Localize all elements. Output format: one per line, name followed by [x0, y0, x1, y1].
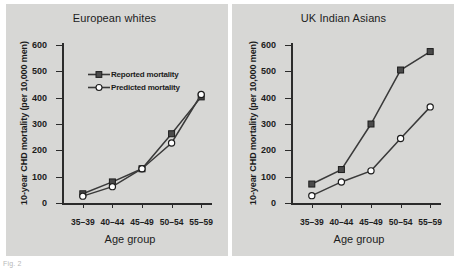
data-point — [427, 104, 433, 110]
data-point — [80, 193, 86, 199]
data-point — [309, 193, 315, 199]
series-line — [83, 95, 201, 197]
data-point — [109, 184, 115, 190]
legend-label-reported-left: Reported mortality — [111, 70, 179, 79]
plot-area-right: 010020030040050060035–3940–4445–4950–545… — [291, 45, 439, 203]
data-point — [338, 167, 344, 173]
y-axis-tick-label: 200 — [261, 145, 276, 155]
y-axis-tick-label: 500 — [32, 66, 47, 76]
x-axis-tick-label: 40–44 — [101, 217, 125, 227]
y-axis-tick-label: 100 — [261, 172, 276, 182]
y-axis-tick-label: 200 — [32, 145, 47, 155]
x-axis-tick-label: 45–49 — [359, 217, 383, 227]
data-point — [368, 168, 374, 174]
data-point — [169, 131, 175, 137]
y-axis-tick-label: 0 — [42, 198, 47, 208]
y-axis-tick-label: 600 — [32, 40, 47, 50]
data-point — [309, 181, 315, 187]
legend-item-predicted-left: Predicted mortality — [88, 81, 180, 94]
data-point — [398, 67, 404, 73]
reported-series-marker-icon — [88, 70, 110, 79]
data-point — [169, 140, 175, 146]
series-predicted — [309, 104, 434, 199]
x-axis-tick-label: 50–54 — [160, 217, 184, 227]
figure-container: European whites 10-year CHD mortality (p… — [0, 0, 458, 271]
x-axis-tick-label: 35–39 — [300, 217, 324, 227]
y-axis-tick-label: 600 — [261, 40, 276, 50]
x-axis-tick-label: 55–59 — [189, 217, 213, 227]
series-layer-right — [291, 45, 455, 207]
panel-uk-indian-asians: UK Indian Asians 10-year CHD mortality (… — [229, 0, 458, 258]
data-point — [398, 135, 404, 141]
panel-title-right: UK Indian Asians — [229, 12, 458, 24]
y-axis-tick-label: 0 — [271, 198, 276, 208]
x-axis-tick-label: 55–59 — [418, 217, 442, 227]
series-line — [312, 52, 430, 184]
y-axis-tick-label: 300 — [32, 119, 47, 129]
predicted-series-marker-icon — [88, 83, 110, 92]
x-axis-label-left: Age group — [40, 233, 220, 245]
y-axis-tick-label: 400 — [32, 93, 47, 103]
y-axis-label-left: 10-year CHD mortality (per 10,000 men) — [19, 33, 29, 213]
series-line — [312, 107, 430, 196]
y-axis-tick-label: 300 — [261, 119, 276, 129]
y-axis-label-right: 10-year CHD mortality (per 10,000 men) — [248, 33, 258, 213]
caption-strip — [0, 258, 458, 271]
series-reported — [80, 94, 204, 197]
series-line — [83, 97, 201, 194]
x-axis-label-right: Age group — [269, 233, 449, 245]
x-axis-tick-label: 50–54 — [389, 217, 413, 227]
data-point — [198, 91, 204, 97]
data-point — [338, 179, 344, 185]
y-axis-tick-label: 400 — [261, 93, 276, 103]
x-axis-tick-label: 45–49 — [130, 217, 154, 227]
series-predicted — [80, 91, 205, 199]
series-reported — [309, 49, 433, 187]
data-point — [139, 166, 145, 172]
data-point — [427, 49, 433, 55]
figure-caption: Fig. 2 — [3, 260, 22, 267]
panel-european-whites: European whites 10-year CHD mortality (p… — [0, 0, 229, 258]
y-axis-tick-label: 100 — [32, 172, 47, 182]
panel-title-left: European whites — [0, 12, 229, 24]
legend-left: Reported mortality Predicted mortality — [88, 68, 180, 94]
legend-label-predicted-left: Predicted mortality — [111, 83, 180, 92]
legend-item-reported-left: Reported mortality — [88, 68, 180, 81]
x-axis-tick-label: 40–44 — [330, 217, 354, 227]
y-axis-tick-label: 500 — [261, 66, 276, 76]
x-axis-tick-label: 35–39 — [71, 217, 95, 227]
data-point — [368, 121, 374, 127]
